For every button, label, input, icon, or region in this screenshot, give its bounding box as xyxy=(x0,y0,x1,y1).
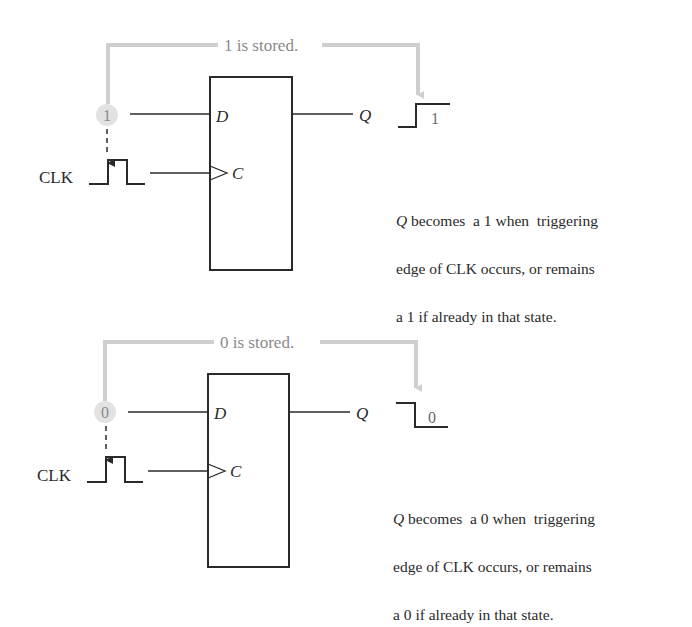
clk-label: CLK xyxy=(37,466,72,485)
stored-label: 1 is stored. xyxy=(224,36,298,55)
stored-annotation-path: 0 is stored. xyxy=(105,333,416,401)
description-line-2: edge of CLK occurs, or remains xyxy=(396,261,598,277)
pin-d-label: D xyxy=(215,107,229,126)
stored-annotation-path: 1 is stored. xyxy=(108,36,418,104)
q-rising-waveform xyxy=(398,104,450,127)
q-output-value: 1 xyxy=(431,110,439,127)
d-input-bubble: 1 xyxy=(96,104,118,126)
clock-triangle-icon xyxy=(208,464,225,478)
description-store-one: Q becomes a 1 when triggering edge of CL… xyxy=(396,181,598,341)
q-symbol: Q xyxy=(393,510,404,527)
d-input-bubble: 0 xyxy=(94,401,116,423)
clock-pulse-waveform xyxy=(89,160,145,184)
clock-pulse-waveform xyxy=(87,457,143,482)
description-line-3: a 0 if already in that state. xyxy=(393,607,595,623)
pin-c-label: C xyxy=(232,164,244,183)
panel-store-zero: 0 is stored. 0 CLK D C Q 0 xyxy=(37,333,448,567)
pin-c-label: C xyxy=(230,462,242,481)
d-input-value: 1 xyxy=(103,107,111,124)
q-output-label: Q xyxy=(359,106,371,125)
panel-store-one: 1 is stored. 1 CLK D C Q 1 xyxy=(39,36,450,270)
description-line-2: edge of CLK occurs, or remains xyxy=(393,559,595,575)
description-line-1: Q becomes a 0 when triggering xyxy=(393,511,595,527)
description-line-1: Q becomes a 1 when triggering xyxy=(396,213,598,229)
description-text: becomes a 1 when triggering xyxy=(407,212,598,229)
q-symbol: Q xyxy=(396,212,407,229)
clock-triangle-icon xyxy=(210,166,227,180)
q-falling-waveform xyxy=(396,403,448,427)
q-output-label: Q xyxy=(356,404,368,423)
description-line-3: a 1 if already in that state. xyxy=(396,309,598,325)
description-store-zero: Q becomes a 0 when triggering edge of CL… xyxy=(393,479,595,627)
stored-label: 0 is stored. xyxy=(220,333,294,352)
q-output-value: 0 xyxy=(428,409,436,426)
description-text: becomes a 0 when triggering xyxy=(404,510,595,527)
flip-flop-block xyxy=(210,77,292,270)
d-input-value: 0 xyxy=(101,404,109,421)
flip-flop-block xyxy=(208,374,289,567)
pin-d-label: D xyxy=(213,404,227,423)
clk-label: CLK xyxy=(39,168,74,187)
